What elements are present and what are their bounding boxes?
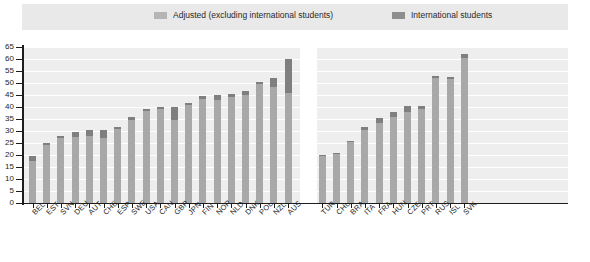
legend-label-international: International students: [411, 10, 492, 21]
y-axis-label: 60: [0, 55, 14, 63]
bar-bra: [347, 141, 354, 203]
bar-segment-international: [376, 118, 383, 123]
bar-segment-international: [199, 96, 206, 98]
bar-gbr: [171, 107, 178, 203]
y-axis-label: 25: [0, 139, 14, 147]
y-axis-label: 20: [0, 151, 14, 159]
bar-segment-international: [114, 127, 121, 129]
y-axis-label: 10: [0, 175, 14, 183]
bar-segment-international: [185, 103, 192, 105]
legend-item-international: International students: [392, 10, 492, 21]
y-axis-tick: [16, 71, 23, 72]
bar-can: [157, 107, 164, 203]
bars-layer: [23, 47, 568, 203]
chart-legend: Adjusted (excluding international studen…: [22, 4, 568, 30]
bar-deu: [72, 132, 79, 203]
bar-segment-international: [228, 94, 235, 98]
bar-segment-international: [100, 130, 107, 138]
bar-nor: [214, 95, 221, 203]
bar-segment-international: [461, 54, 468, 58]
y-axis-tick: [16, 83, 23, 84]
bar-dnk: [242, 91, 249, 203]
y-axis-tick: [16, 167, 23, 168]
bar-segment-international: [333, 153, 340, 154]
bar-nzl: [270, 78, 277, 203]
bar-segment-international: [270, 78, 277, 86]
bar-est: [43, 143, 50, 203]
bar-aut: [86, 130, 93, 203]
bar-segment-international: [390, 112, 397, 117]
y-axis-tick: [16, 131, 23, 132]
y-axis-tick: [16, 119, 23, 120]
bar-hun: [390, 112, 397, 203]
bar-svn: [57, 136, 64, 203]
y-axis-label: 45: [0, 91, 14, 99]
bar-esp: [114, 127, 121, 203]
bar-segment-international: [171, 107, 178, 120]
bar-segment-international: [86, 130, 93, 136]
bar-prt: [418, 106, 425, 203]
bar-segment-international: [404, 106, 411, 112]
legend-swatch-icon-adjusted: [154, 12, 167, 19]
bar-segment-international: [29, 156, 36, 161]
bar-usa: [143, 109, 150, 203]
bar-che: [100, 130, 107, 203]
bar-fin: [199, 96, 206, 203]
y-axis-label: 0: [0, 199, 14, 207]
y-axis-tick: [16, 179, 23, 180]
bar-fra: [376, 118, 383, 203]
bar-segment-international: [447, 77, 454, 79]
y-axis-tick: [16, 155, 23, 156]
bar-segment-international: [128, 117, 135, 121]
bar-tur: [319, 155, 326, 203]
chart-root: Adjusted (excluding international studen…: [0, 0, 590, 262]
y-axis-tick: [16, 191, 23, 192]
bar-aus: [285, 59, 292, 203]
bar-cze: [404, 106, 411, 203]
y-axis-line: [22, 45, 24, 205]
y-axis-tick: [16, 203, 23, 204]
y-axis-label: 15: [0, 163, 14, 171]
y-axis-tick: [16, 143, 23, 144]
bar-ita: [361, 127, 368, 203]
y-axis-label: 50: [0, 79, 14, 87]
bar-pol: [256, 82, 263, 203]
y-axis-tick: [16, 95, 23, 96]
bar-segment-international: [347, 141, 354, 142]
bar-rus: [432, 76, 439, 203]
y-axis-tick: [16, 107, 23, 108]
bar-segment-international: [214, 95, 221, 100]
bar-segment-international: [418, 106, 425, 110]
y-axis-label: 30: [0, 127, 14, 135]
y-axis-label: 40: [0, 103, 14, 111]
bar-segment-international: [143, 109, 150, 111]
bar-bel: [29, 156, 36, 203]
bar-chl: [333, 153, 340, 203]
legend-item-adjusted: Adjusted (excluding international studen…: [154, 10, 333, 21]
bar-nld: [228, 94, 235, 203]
bar-segment-international: [256, 82, 263, 84]
bar-segment-international: [157, 107, 164, 109]
y-axis-label: 55: [0, 67, 14, 75]
bar-segment-international: [72, 132, 79, 137]
y-axis-tick: [16, 47, 23, 48]
y-axis-label: 5: [0, 187, 14, 195]
bar-swe: [128, 117, 135, 203]
bar-segment-international: [361, 127, 368, 129]
bar-segment-international: [285, 59, 292, 93]
bar-segment-international: [57, 136, 64, 138]
y-axis-label: 35: [0, 115, 14, 123]
y-axis-label: 65: [0, 43, 14, 51]
bar-segment-international: [242, 91, 249, 95]
bar-segment-international: [432, 76, 439, 78]
bar-isl: [447, 77, 454, 203]
bar-segment-international: [43, 143, 50, 145]
legend-label-adjusted: Adjusted (excluding international studen…: [173, 10, 333, 21]
bar-jpn: [185, 103, 192, 203]
legend-swatch-icon-international: [392, 12, 405, 19]
y-axis-tick: [16, 59, 23, 60]
bar-segment-international: [319, 155, 326, 156]
bar-svk: [461, 54, 468, 203]
